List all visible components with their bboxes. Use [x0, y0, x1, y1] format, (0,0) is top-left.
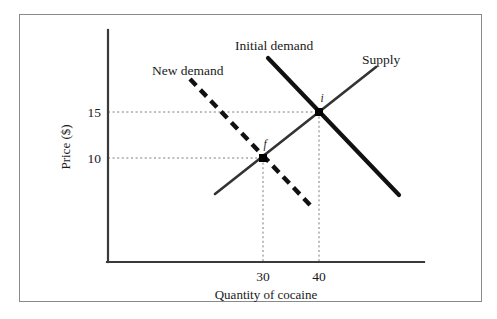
y-tick-label-10: 10 [88, 151, 102, 166]
initial-demand-curve [268, 58, 399, 195]
final-equilibrium-marker [259, 154, 267, 162]
supply-label: Supply [362, 52, 401, 67]
final-equilibrium-label: f [263, 138, 268, 151]
supply-demand-chart: i f New demand Initial demand Supply 15 … [0, 0, 497, 319]
x-tick-label-40: 40 [312, 269, 326, 284]
initial-demand-label: Initial demand [235, 38, 314, 53]
figure-root: i f New demand Initial demand Supply 15 … [0, 0, 497, 319]
new-demand-curve [190, 79, 311, 206]
y-axis-title: Price ($) [58, 124, 73, 169]
x-tick-label-30: 30 [256, 269, 270, 284]
new-demand-label: New demand [152, 63, 224, 78]
y-tick-label-15: 15 [88, 105, 102, 120]
initial-equilibrium-label: i [320, 92, 323, 104]
x-axis-title: Quantity of cocaine [215, 287, 318, 302]
initial-equilibrium-marker [315, 108, 323, 116]
curves [190, 58, 399, 206]
guide-lines [108, 112, 319, 261]
